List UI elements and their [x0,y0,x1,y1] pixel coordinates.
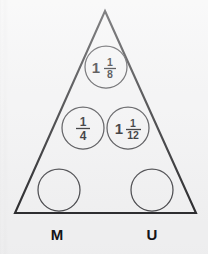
figure-canvas: 1 1 8 1 4 1 1 12 [0,0,208,254]
circle-bottom-left[interactable] [38,169,80,211]
corner-label-m: M [51,226,64,243]
circle-bottom-right[interactable] [131,169,173,211]
circle-top[interactable]: 1 1 8 [85,46,127,88]
circle-middle-right-numerator: 1 [130,117,136,129]
circle-middle-right-outline [107,107,149,149]
circle-middle-right[interactable]: 1 1 12 [107,107,149,149]
circle-top-denominator: 8 [107,68,113,80]
corner-label-u: U [147,226,158,243]
circle-middle-right-denominator: 12 [127,129,139,141]
circle-bottom-left-outline [38,169,80,211]
circle-middle-right-whole: 1 [115,120,123,137]
circle-middle-left-numerator: 1 [80,115,87,129]
circle-top-numerator: 1 [107,56,113,68]
circle-bottom-right-outline [131,169,173,211]
triangle-outline [15,11,196,213]
fraction-triangle-figure: 1 1 8 1 4 1 1 12 [0,0,208,254]
circle-middle-left-denominator: 4 [80,129,87,143]
circle-middle-left[interactable]: 1 4 [62,107,104,149]
circle-top-whole: 1 [92,59,100,76]
